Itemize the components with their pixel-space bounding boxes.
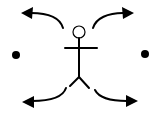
arrow-down-left-icon <box>22 88 66 108</box>
figure-head <box>73 26 85 38</box>
figure-left-leg <box>70 77 79 86</box>
stick-figure <box>65 26 97 88</box>
arrow-down-right-icon <box>95 90 138 107</box>
figure-right-leg <box>79 77 89 88</box>
right-dot <box>141 50 149 58</box>
diagram-canvas <box>0 0 160 118</box>
left-dot <box>12 51 20 59</box>
diagram-svg <box>0 0 160 118</box>
arrow-up-left-icon <box>21 7 63 28</box>
arrow-up-right-icon <box>93 7 134 28</box>
